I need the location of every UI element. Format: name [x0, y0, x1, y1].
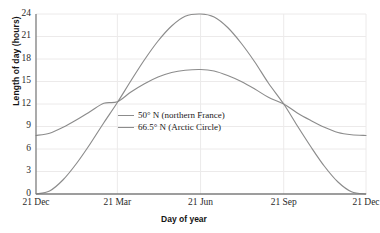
legend-swatch-50n — [118, 115, 134, 116]
legend-swatch-arctic — [118, 127, 134, 128]
legend-item-arctic: 66.5° N (Arctic Circle) — [118, 122, 225, 134]
chart-legend: 50° N (northern France) 66.5° N (Arctic … — [118, 110, 225, 133]
legend-label-arctic: 66.5° N (Arctic Circle) — [138, 122, 221, 134]
legend-label-50n: 50° N (northern France) — [138, 110, 225, 122]
legend-item-50n: 50° N (northern France) — [118, 110, 225, 122]
